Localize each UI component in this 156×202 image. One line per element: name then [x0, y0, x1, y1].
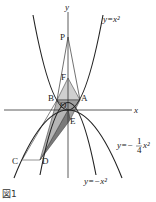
curve-label-y-eq-x2: y=x² — [102, 14, 120, 24]
x-axis-label: x — [133, 105, 138, 115]
point-label-f: F — [61, 72, 66, 82]
svg-text:x²: x² — [142, 140, 150, 150]
point-label-a: A — [81, 93, 88, 103]
point-label-o: O — [60, 100, 67, 110]
svg-text:4: 4 — [137, 145, 142, 155]
figure-canvas: y x P F B A O E C D y=x² y=− 1 4 x² y=−x… — [0, 0, 156, 202]
point-label-e: E — [70, 116, 76, 126]
point-label-c: C — [12, 156, 18, 166]
point-label-d: D — [42, 156, 49, 166]
y-axis-label: y — [64, 2, 69, 12]
point-label-b: B — [48, 93, 54, 103]
figure-caption: 図1 — [2, 189, 17, 199]
curve-label-y-eq-neg-quarter-x2: y=− 1 4 x² — [116, 136, 150, 155]
point-label-p: P — [60, 32, 65, 42]
svg-text:y=−: y=− — [116, 140, 133, 150]
curve-label-y-eq-neg-x2: y=−x² — [83, 176, 107, 186]
